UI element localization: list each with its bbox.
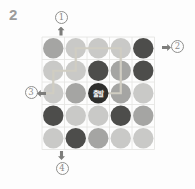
exit-label-4: 4 bbox=[56, 162, 69, 175]
grid-dot-dark bbox=[111, 106, 131, 126]
exit-label-2: 2 bbox=[171, 40, 184, 53]
grid-dot-medium bbox=[66, 83, 86, 103]
grid-dot-light bbox=[133, 83, 153, 103]
start-label: 출발 bbox=[93, 89, 105, 98]
grid-dot-dark bbox=[133, 38, 153, 58]
exit-label-3: 3 bbox=[25, 86, 38, 99]
grid-dot-medium bbox=[88, 128, 108, 148]
grid-dot-light bbox=[133, 128, 153, 148]
grid-dot-light bbox=[88, 106, 108, 126]
exit-label-1: 1 bbox=[55, 11, 68, 24]
grid-dot-dark bbox=[88, 61, 108, 81]
grid-dot-dark bbox=[43, 106, 63, 126]
puzzle-page: 2 출발 1 2 3 4 bbox=[0, 0, 195, 189]
grid-dot-medium bbox=[133, 106, 153, 126]
grid-dot-light bbox=[111, 128, 131, 148]
grid-dot-light bbox=[66, 106, 86, 126]
grid-dot-dark bbox=[66, 128, 86, 148]
grid-dot-dark bbox=[133, 61, 153, 81]
grid-dot-medium bbox=[43, 38, 63, 58]
grid-dot-light bbox=[43, 128, 63, 148]
